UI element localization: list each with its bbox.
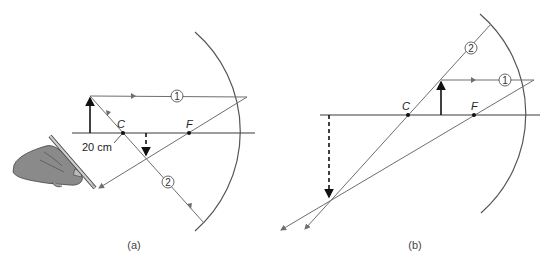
ray-diagram-canvas: 1 2 C F 20 cm (a) [0,0,552,267]
ray-1-label: 1 [174,91,180,102]
center-of-curvature-point [406,113,410,117]
panel-a: 1 2 C F 20 cm (a) [13,32,255,251]
center-of-curvature-label: C [402,100,410,112]
ray-1-direction-icon [471,77,476,83]
panel-b: 1 2 C F (b) [281,14,540,251]
ray-1-direction-icon [131,93,136,99]
focal-point [187,131,191,135]
ray-1-reflected [99,97,247,188]
panel-b-caption: (b) [408,239,421,251]
distance-leader-line [114,134,122,143]
ray-1-incident [90,96,247,97]
distance-label: 20 cm [82,141,112,153]
ray-2-label: 2 [468,43,474,54]
panel-a-caption: (a) [127,239,140,251]
concave-mirror [195,32,240,231]
focal-point-label: F [186,118,194,130]
ray-1-label: 1 [502,75,508,86]
ray-2 [305,24,491,229]
focal-point-label: F [471,100,479,112]
ray-2-label: 2 [165,177,171,188]
focal-point [472,113,476,117]
concave-mirror [480,14,526,213]
center-of-curvature-label: C [117,118,125,130]
